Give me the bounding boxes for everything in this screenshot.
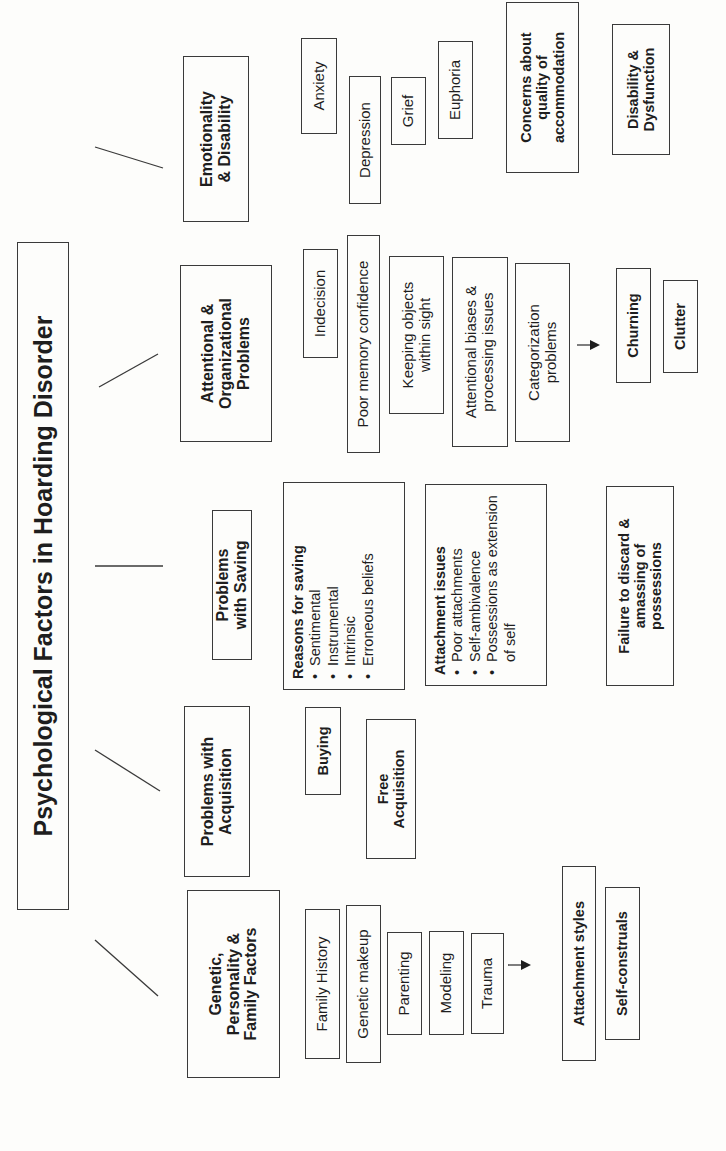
outcome-failure-to-discard: Failure to discard & amassing of possess…: [606, 486, 674, 686]
item-family-history: Family History: [305, 909, 340, 1059]
right-arrow-icon: [590, 340, 600, 350]
category-saving: Problems with Saving: [212, 510, 252, 660]
category-label-line: Genetic,: [207, 952, 225, 1015]
connector-emotionality: [95, 147, 163, 168]
reasons-for-saving-box: Reasons for saving Sentimental Instrumen…: [283, 482, 405, 690]
right-arrow-icon: [521, 960, 531, 970]
attachment-item: Self-ambivalence: [467, 495, 484, 675]
reasons-heading: Reasons for saving: [290, 493, 307, 679]
connector-acquisition: [95, 750, 160, 791]
attachment-item: Possessions as extension of self: [484, 495, 519, 675]
category-label-line: Emotionality: [198, 91, 216, 187]
item-free-acquisition: Free Acquisition: [366, 719, 416, 859]
category-label-line: Organizational: [217, 298, 235, 409]
category-label-line: Problems: [235, 317, 253, 390]
item-euphoria: Euphoria: [438, 41, 473, 139]
connector-genetic: [95, 940, 158, 996]
item-indecision: Indecision: [303, 249, 338, 358]
category-label-line: Attentional &: [199, 304, 217, 404]
outcome-self-construals: Self-construals: [605, 887, 640, 1040]
category-label-line: Problems with: [199, 737, 217, 846]
item-trauma: Trauma: [471, 933, 504, 1034]
category-label-line: & Disability: [216, 95, 234, 182]
reason-item: Instrumental: [325, 493, 342, 679]
outcome-attachment-styles: Attachment styles: [562, 866, 596, 1061]
category-label-line: Family Factors: [242, 928, 260, 1041]
category-label-line: Personality &: [225, 933, 243, 1035]
category-label-line: Problems: [214, 549, 232, 622]
diagram-title: Psychological Factors in Hoarding Disord…: [17, 242, 69, 910]
item-grief: Grief: [391, 77, 426, 145]
category-acquisition: Problems with Acquisition: [184, 706, 250, 877]
attachment-item: Poor attachments: [449, 495, 466, 675]
item-keeping-objects: Keeping objects within sight: [389, 256, 444, 414]
item-anxiety: Anxiety: [301, 38, 337, 134]
item-categorization: Categorization problems: [515, 263, 570, 442]
item-modeling: Modeling: [429, 931, 464, 1035]
item-genetic-makeup: Genetic makeup: [346, 905, 381, 1063]
hoarding-diagram: Psychological Factors in Hoarding Disord…: [0, 0, 726, 1151]
connector-attentional: [99, 354, 158, 387]
item-attentional-biases: Attentional biases & processing issues: [452, 257, 508, 447]
category-label-line: with Saving: [232, 541, 250, 630]
outcome-disability: Disability & Dysfunction: [612, 24, 670, 155]
item-parenting: Parenting: [387, 932, 422, 1035]
item-depression: Depression: [349, 76, 381, 204]
reason-item: Erroneous beliefs: [360, 493, 377, 679]
item-buying: Buying: [305, 707, 341, 795]
reason-item: Sentimental: [307, 493, 324, 679]
category-attentional: Attentional & Organizational Problems: [180, 265, 272, 442]
category-emotionality: Emotionality & Disability: [183, 56, 249, 222]
category-genetic: Genetic, Personality & Family Factors: [187, 890, 280, 1078]
outcome-accommodation: Concerns about quality of accommodation: [506, 2, 579, 173]
outcome-churning: Churning: [616, 268, 651, 383]
attachment-issues-box: Attachment issues Poor attachments Self-…: [425, 484, 547, 686]
attachment-heading: Attachment issues: [432, 495, 449, 675]
item-poor-memory: Poor memory confidence: [347, 235, 380, 453]
reason-item: Intrinsic: [342, 493, 359, 679]
category-label-line: Acquisition: [217, 748, 235, 835]
outcome-clutter: Clutter: [663, 280, 698, 373]
